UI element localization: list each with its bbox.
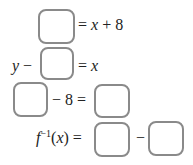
equation-2-rhs: = x: [78, 58, 98, 74]
answer-box-5[interactable]: [94, 122, 130, 157]
equals-sign: =: [78, 57, 91, 74]
equation-4-minus: −: [136, 130, 145, 146]
answer-box-4[interactable]: [94, 84, 130, 118]
equation-1-rhs: = x + 8: [78, 17, 123, 33]
variable-x: x: [91, 57, 98, 74]
answer-box-3[interactable]: [13, 82, 48, 117]
answer-box-1[interactable]: [38, 9, 75, 44]
equals-sign: =: [69, 129, 82, 146]
equation-2-lhs: y −: [12, 58, 32, 74]
equation-3-op: − 8 =: [52, 92, 86, 108]
equation-4-lhs: f−1(x) =: [36, 130, 82, 146]
plus-eight: + 8: [98, 16, 123, 33]
minus-sign: −: [19, 57, 32, 74]
variable-x: x: [56, 129, 63, 146]
equals-sign: =: [78, 16, 91, 33]
inverse-superscript: −1: [40, 128, 51, 139]
answer-box-6[interactable]: [148, 121, 184, 156]
answer-box-2[interactable]: [40, 47, 74, 80]
